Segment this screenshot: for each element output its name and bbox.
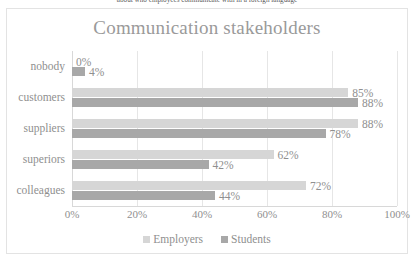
bar-value-label: 4% — [89, 66, 104, 78]
category-label-suppliers: suppliers — [23, 113, 72, 144]
bar-nobody-students[interactable]: 4% — [72, 67, 85, 76]
category-label-superiors: superiors — [23, 144, 72, 175]
legend-swatch-icon — [143, 236, 150, 243]
bar-value-label: 44% — [219, 190, 240, 202]
x-tick-60: 60% — [257, 208, 277, 220]
x-axis-tick-labels: 0%20%40%60%80%100% — [72, 208, 397, 224]
bar-group: nobody0%4% — [72, 51, 397, 82]
bar-value-label: 72% — [310, 180, 331, 192]
bar-value-label: 42% — [213, 159, 234, 171]
chart-container: Communication stakeholders nobody0%4%cus… — [6, 8, 408, 254]
figure-caption: about who employees communicate with in … — [0, 0, 414, 8]
bar-suppliers-students[interactable]: 78% — [72, 129, 326, 138]
bar-colleagues-students[interactable]: 44% — [72, 191, 215, 200]
bar-group: colleagues72%44% — [72, 175, 397, 206]
chart-title: Communication stakeholders — [7, 17, 407, 39]
legend-item-students[interactable]: Students — [221, 233, 271, 245]
chart-legend: EmployersStudents — [7, 233, 407, 245]
legend-label: Employers — [153, 233, 203, 245]
bar-superiors-students[interactable]: 42% — [72, 160, 209, 169]
bar-value-label: 88% — [362, 97, 383, 109]
x-axis-line — [72, 206, 397, 207]
bar-superiors-employers[interactable]: 62% — [72, 150, 274, 159]
bar-customers-students[interactable]: 88% — [72, 98, 358, 107]
bar-value-label: 78% — [330, 128, 351, 140]
category-label-colleagues: colleagues — [16, 175, 72, 206]
category-label-customers: customers — [18, 82, 72, 113]
legend-label: Students — [231, 233, 271, 245]
bar-colleagues-employers[interactable]: 72% — [72, 181, 306, 190]
bar-group: customers85%88% — [72, 82, 397, 113]
legend-item-employers[interactable]: Employers — [143, 233, 203, 245]
bar-value-label: 62% — [278, 149, 299, 161]
x-tick-80: 80% — [322, 208, 342, 220]
x-tick-0: 0% — [65, 208, 80, 220]
x-tick-20: 20% — [127, 208, 147, 220]
figure-caption-text: about who employees communicate with in … — [0, 0, 414, 4]
plot-area: nobody0%4%customers85%88%suppliers88%78%… — [72, 51, 397, 206]
x-tick-40: 40% — [192, 208, 212, 220]
bar-group: superiors62%42% — [72, 144, 397, 175]
category-label-nobody: nobody — [31, 51, 73, 82]
legend-swatch-icon — [221, 236, 228, 243]
bar-group: suppliers88%78% — [72, 113, 397, 144]
bar-suppliers-employers[interactable]: 88% — [72, 119, 358, 128]
gridline — [397, 51, 398, 206]
x-tick-100: 100% — [384, 208, 410, 220]
bar-customers-employers[interactable]: 85% — [72, 88, 348, 97]
bar-value-label: 88% — [362, 118, 383, 130]
